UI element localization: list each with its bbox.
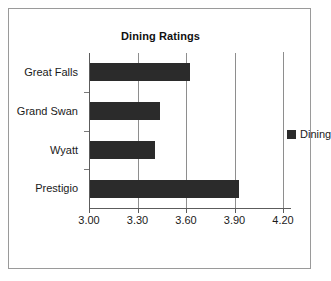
category-axis-tick (84, 169, 89, 170)
chart-title: Dining Ratings (9, 30, 312, 42)
value-axis-tick-labels: 3.003.303.603.904.20 (89, 214, 299, 230)
value-axis-tick (89, 208, 90, 213)
bar-band (90, 131, 155, 170)
value-axis-tick-label: 3.30 (127, 214, 148, 226)
value-axis-tick (138, 208, 139, 213)
category-axis-tick (84, 131, 89, 132)
value-axis-tick-label: 3.00 (78, 214, 99, 226)
value-axis-line (89, 208, 291, 209)
value-axis-tick (235, 208, 236, 213)
chart-frame: Dining Ratings Great FallsGrand SwanWyat… (8, 8, 311, 269)
value-axis-tick-label: 4.20 (272, 214, 293, 226)
category-label: Great Falls (24, 53, 78, 92)
bar-band (90, 53, 190, 92)
gridline-4.20 (283, 52, 284, 208)
value-axis-tick-label: 3.90 (224, 214, 245, 226)
category-axis-labels: Great FallsGrand SwanWyattPrestigio (9, 53, 84, 208)
category-label: Wyatt (50, 131, 78, 170)
legend-swatch-icon (287, 130, 296, 139)
bar-band (90, 169, 239, 208)
bar (90, 180, 239, 198)
category-label: Grand Swan (17, 92, 78, 131)
bar (90, 141, 155, 159)
plot-area (89, 53, 283, 208)
value-axis-tick (186, 208, 187, 213)
category-axis-tick (84, 92, 89, 93)
bar (90, 102, 160, 120)
chart-legend: Dining (287, 128, 331, 140)
value-axis-tick (283, 208, 284, 213)
category-label: Prestigio (35, 169, 78, 208)
value-axis-tick-label: 3.60 (175, 214, 196, 226)
bar-band (90, 92, 160, 131)
bar (90, 63, 190, 81)
legend-label-dining: Dining (300, 128, 331, 140)
